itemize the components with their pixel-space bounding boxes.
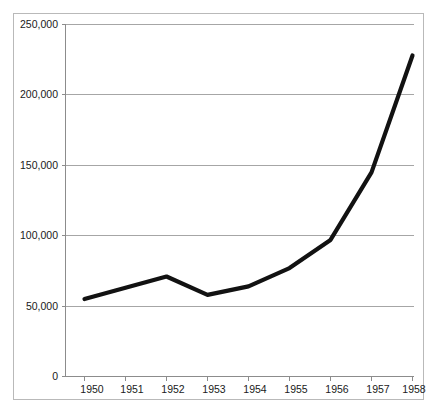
x-tick-label-1956: 1956 bbox=[325, 383, 349, 395]
y-tick-label-50000: 50,000 bbox=[26, 300, 58, 312]
x-tick-labels: 1950 1951 1952 1953 1954 1955 1956 1957 … bbox=[80, 383, 426, 395]
x-tick-label-1953: 1953 bbox=[202, 383, 226, 395]
x-tick-label-1951: 1951 bbox=[120, 383, 144, 395]
x-tick-label-1955: 1955 bbox=[284, 383, 308, 395]
x-tick-label-1958: 1958 bbox=[402, 383, 426, 395]
x-tick-label-1952: 1952 bbox=[161, 383, 185, 395]
x-tick-label-1954: 1954 bbox=[243, 383, 267, 395]
x-tickmarks bbox=[85, 377, 413, 381]
y-tick-label-100000: 100,000 bbox=[20, 229, 58, 241]
y-tick-label-0: 0 bbox=[52, 370, 58, 382]
y-tick-labels: 250,000 200,000 150,000 100,000 50,000 0 bbox=[20, 18, 58, 382]
data-series-line bbox=[85, 55, 413, 299]
y-tick-label-250000: 250,000 bbox=[20, 18, 58, 30]
gridlines bbox=[66, 25, 414, 307]
y-tick-label-200000: 200,000 bbox=[20, 88, 58, 100]
y-tickmarks bbox=[62, 25, 66, 377]
line-chart: 250,000 200,000 150,000 100,000 50,000 0… bbox=[0, 0, 437, 416]
chart-figure: 250,000 200,000 150,000 100,000 50,000 0… bbox=[0, 0, 437, 416]
x-tick-label-1957: 1957 bbox=[366, 383, 390, 395]
x-tick-label-1950: 1950 bbox=[80, 383, 104, 395]
y-tick-label-150000: 150,000 bbox=[20, 159, 58, 171]
